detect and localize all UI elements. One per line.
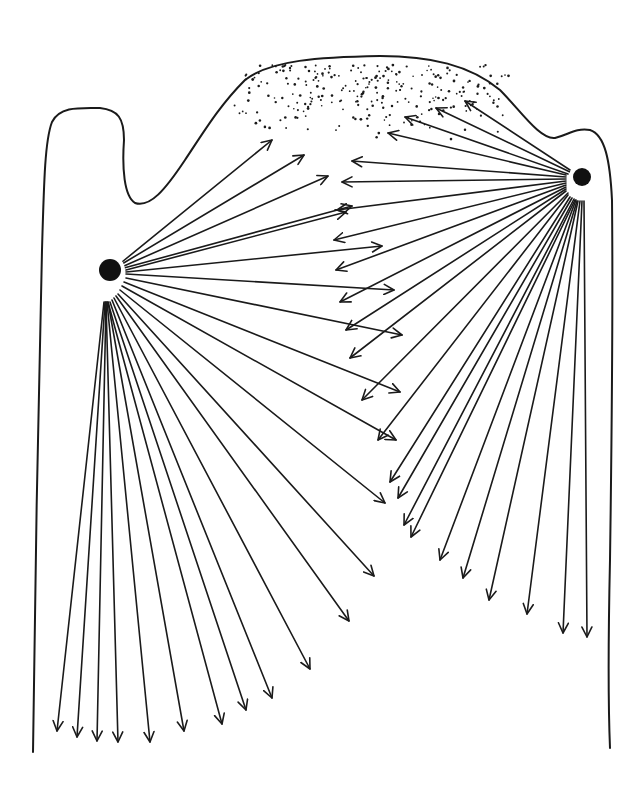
- arrow: [405, 117, 568, 174]
- stipple-dot: [391, 70, 393, 72]
- stipple-dot: [433, 100, 435, 102]
- stipple-dot: [333, 74, 335, 76]
- arrow: [489, 201, 578, 600]
- stipple-dot: [285, 127, 287, 129]
- stipple-dot: [431, 83, 433, 85]
- stipple-dot: [316, 85, 319, 88]
- stipple-dot: [459, 91, 461, 93]
- stipple-dot: [385, 116, 387, 118]
- stipple-dot: [279, 69, 281, 71]
- stipple-dot: [395, 90, 397, 92]
- stipple-dot: [356, 83, 358, 85]
- stipple-dot: [428, 82, 430, 84]
- arrow: [106, 302, 118, 742]
- stipple-dot: [315, 65, 317, 67]
- stipple-dot: [357, 95, 359, 97]
- stipple-dot: [283, 65, 285, 67]
- stipple-dot: [360, 71, 362, 73]
- stipple-dot: [274, 101, 276, 103]
- arrow: [107, 302, 150, 742]
- stipple-dot: [366, 86, 368, 88]
- stipple-dot: [398, 83, 400, 85]
- stipple-dot: [239, 112, 241, 114]
- stipple-dot: [354, 118, 357, 121]
- stipple-dot: [426, 70, 428, 72]
- arrow: [108, 302, 184, 731]
- stipple-dot: [497, 131, 499, 133]
- stipple-dot: [429, 127, 431, 129]
- stipple-dot: [375, 136, 378, 139]
- stipple-dot: [342, 108, 344, 110]
- stipple-dot: [438, 113, 440, 115]
- stipple-dot: [376, 65, 378, 67]
- stipple-dot: [248, 87, 250, 89]
- stipple-dot: [376, 99, 378, 101]
- stipple-dot: [288, 105, 290, 107]
- stipple-dot: [397, 101, 399, 103]
- stipple-dot: [432, 97, 434, 99]
- stipple-dot: [392, 64, 395, 67]
- stipple-dot: [367, 125, 369, 127]
- stipple-dot: [357, 67, 359, 69]
- stipple-dot: [305, 81, 307, 83]
- stipple-dot: [493, 99, 495, 101]
- stipple-dot: [245, 79, 247, 81]
- stipple-dot: [381, 102, 383, 104]
- stipple-dot: [353, 90, 355, 92]
- stipple-dot: [311, 98, 313, 100]
- arrow: [126, 246, 382, 272]
- stipple-dot: [412, 75, 414, 77]
- stipple-dot: [299, 94, 302, 97]
- arrow: [122, 140, 272, 262]
- stipple-dot: [384, 119, 386, 121]
- stipple-dot: [498, 98, 500, 100]
- stipple-dot: [483, 87, 486, 90]
- stipple-dot: [305, 84, 307, 86]
- stipple-dot: [341, 89, 343, 91]
- arrow: [126, 278, 402, 335]
- stipple-dot: [248, 91, 251, 94]
- stipple-dot: [476, 93, 478, 95]
- stipple-dot: [324, 68, 326, 70]
- stipple-dot: [268, 127, 271, 130]
- arrow: [465, 101, 570, 170]
- stipple-dot: [378, 71, 380, 73]
- stipple-dot: [489, 95, 491, 97]
- stipple-dot: [289, 67, 291, 69]
- stipple-dot: [429, 101, 431, 103]
- stipple-dot: [352, 116, 354, 118]
- stipple-dot: [402, 83, 404, 85]
- stipple-dot: [330, 76, 333, 79]
- stipple-dot: [251, 78, 254, 81]
- arrow: [404, 199, 574, 525]
- stipple-dot: [400, 85, 402, 87]
- arrow: [584, 201, 587, 637]
- stipple-dot: [264, 126, 267, 129]
- arrow: [120, 290, 385, 503]
- stipple-dot: [483, 66, 485, 68]
- arrow: [110, 302, 246, 710]
- stipple-dot: [453, 80, 456, 83]
- stipple-dot: [428, 109, 430, 111]
- stipple-dot: [501, 75, 503, 77]
- stipple-dot: [371, 79, 373, 81]
- stipple-dot: [297, 109, 299, 111]
- stipple-dot: [349, 90, 351, 92]
- stipple-dot: [289, 70, 291, 72]
- stipple-dot: [421, 74, 423, 76]
- stipple-dot: [318, 80, 320, 82]
- stipple-dot: [366, 108, 368, 110]
- stipple-dot: [234, 105, 236, 107]
- stipple-dot: [365, 77, 367, 79]
- stipple-dot: [259, 64, 262, 67]
- stipple-dot: [371, 101, 373, 103]
- stipple-dot: [389, 124, 391, 126]
- left-source-dot: [99, 259, 121, 281]
- stipple-dot: [389, 114, 391, 116]
- stipple-dot: [321, 95, 324, 98]
- stipple-dot: [321, 105, 323, 107]
- stipple-dot: [420, 95, 422, 97]
- arrow: [57, 302, 104, 731]
- stipple-dot: [496, 83, 499, 86]
- stipple-dot: [352, 64, 355, 67]
